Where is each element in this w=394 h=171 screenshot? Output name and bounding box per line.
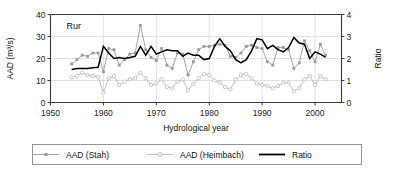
data-point-marker [155, 82, 158, 85]
data-point-marker [282, 46, 285, 49]
data-point-marker [192, 60, 195, 63]
data-point-marker [81, 71, 84, 74]
data-point-marker [165, 85, 168, 88]
data-point-marker [171, 67, 174, 70]
data-point-marker [250, 44, 253, 47]
x-axis-tick-label: 1960 [94, 108, 113, 118]
chart-figure: 01020304001234195019601970198019902000AA… [0, 0, 394, 171]
x-axis-title: Hydrological year [163, 123, 229, 133]
data-point-marker [102, 91, 105, 94]
legend-label: AAD (Stah) [66, 150, 109, 160]
data-point-marker [86, 73, 89, 76]
data-point-marker [70, 76, 73, 79]
data-point-marker [76, 58, 79, 61]
data-point-marker [96, 76, 99, 79]
data-point-marker [123, 80, 126, 83]
data-point-marker [208, 73, 211, 76]
data-point-marker [170, 87, 173, 90]
data-point-marker [245, 45, 248, 48]
data-point-marker [239, 73, 242, 76]
data-point-marker [150, 56, 153, 59]
data-point-marker [160, 78, 163, 81]
data-point-marker [91, 52, 94, 55]
data-point-marker [118, 83, 121, 86]
data-point-marker [240, 52, 243, 55]
data-point-marker [297, 87, 300, 90]
data-point-marker [128, 78, 131, 81]
data-point-marker [133, 77, 136, 80]
data-point-marker [197, 48, 200, 51]
data-point-marker [260, 83, 263, 86]
data-point-marker [187, 74, 190, 77]
data-point-marker [298, 62, 301, 65]
y-axis-left-title: AAD (m³/s) [5, 37, 15, 79]
data-point-marker [107, 47, 110, 50]
y-axis-left-tick-label: 30 [36, 32, 46, 42]
data-point-marker [292, 67, 295, 70]
data-point-marker [213, 79, 216, 82]
y-axis-right-tick-label: 2 [347, 54, 352, 64]
legend-swatch-marker [158, 153, 162, 157]
data-point-marker [128, 53, 131, 56]
data-point-marker [223, 85, 226, 88]
data-point-marker [324, 78, 327, 81]
data-point-marker [266, 84, 269, 87]
data-point-marker [234, 78, 237, 81]
data-point-marker [208, 45, 211, 48]
x-axis-tick-label: 1970 [147, 108, 166, 118]
data-point-marker [97, 52, 100, 55]
data-point-marker [75, 74, 78, 77]
data-point-marker [166, 64, 169, 67]
data-point-marker [155, 59, 158, 62]
legend-swatch-marker [45, 153, 48, 156]
data-point-marker [192, 82, 195, 85]
legend-label: AAD (Heimbach) [180, 150, 244, 160]
data-point-marker [255, 82, 258, 85]
y-axis-right-tick-label: 3 [347, 32, 352, 42]
data-point-marker [319, 43, 322, 46]
data-point-marker [139, 24, 142, 27]
data-point-marker [303, 40, 306, 43]
data-point-marker [160, 47, 163, 50]
data-point-marker [229, 88, 232, 91]
data-point-marker [176, 80, 179, 83]
data-point-marker [181, 78, 184, 81]
data-point-marker [202, 72, 205, 75]
x-axis-tick-label: 1950 [41, 108, 60, 118]
y-axis-left-tick-label: 20 [36, 54, 46, 64]
data-point-marker [102, 70, 105, 73]
chart-canvas: 01020304001234195019601970198019902000AA… [0, 0, 394, 171]
data-point-marker [255, 46, 258, 49]
data-point-marker [197, 77, 200, 80]
y-axis-right-tick-label: 4 [347, 10, 352, 20]
data-point-marker [287, 81, 290, 84]
y-axis-left-tick-label: 10 [36, 76, 46, 86]
data-point-marker [218, 81, 221, 84]
data-point-marker [271, 64, 274, 67]
y-axis-right-title: Ratio [373, 48, 383, 68]
data-point-marker [186, 89, 189, 92]
data-point-marker [303, 78, 306, 81]
data-point-marker [292, 90, 295, 93]
data-point-marker [91, 74, 94, 77]
data-point-marker [276, 84, 279, 87]
data-point-marker [250, 77, 253, 80]
data-point-marker [245, 72, 248, 75]
data-point-marker [271, 87, 274, 90]
data-point-marker [313, 83, 316, 86]
data-point-marker [319, 74, 322, 77]
x-axis-tick-label: 1980 [200, 108, 219, 118]
data-point-marker [308, 74, 311, 77]
data-point-marker [113, 48, 116, 51]
data-point-marker [203, 45, 206, 48]
data-point-marker [86, 55, 89, 58]
data-point-marker [229, 55, 232, 58]
data-point-marker [282, 81, 285, 84]
data-point-marker [139, 71, 142, 74]
y-axis-left-tick-label: 40 [36, 10, 46, 20]
x-axis-tick-label: 1990 [253, 108, 272, 118]
plot-annotation-rur: Rur [67, 21, 82, 31]
data-point-marker [144, 48, 147, 51]
data-point-marker [308, 49, 311, 52]
y-axis-right-tick-label: 1 [347, 76, 352, 86]
